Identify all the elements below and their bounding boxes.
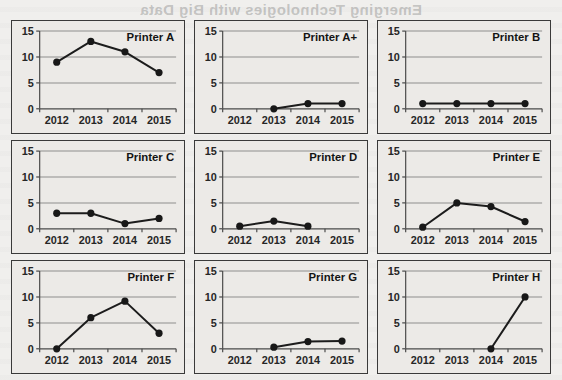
y-tick-label-5: 5	[211, 317, 217, 329]
y-tick-label-5: 5	[211, 197, 217, 209]
chart-panel-printer-f: 0510152012201320142015Printer F	[11, 260, 185, 374]
data-point-2012	[419, 224, 426, 231]
chart-panel-printer-c: 0510152012201320142015Printer C	[11, 140, 185, 254]
y-tick-label-5: 5	[211, 77, 217, 89]
x-tick-label-2012: 2012	[45, 354, 69, 366]
data-point-2012	[419, 100, 426, 107]
data-point-2014	[487, 203, 494, 210]
y-tick-label-15: 15	[388, 265, 400, 277]
series-line	[57, 301, 159, 349]
y-tick-label-10: 10	[388, 171, 400, 183]
panel-title: Printer A	[127, 31, 175, 43]
data-point-2014	[304, 223, 311, 230]
x-tick-label-2012: 2012	[411, 354, 435, 366]
x-tick-label-2014: 2014	[479, 354, 504, 366]
y-tick-label-15: 15	[205, 25, 217, 37]
data-point-2012	[236, 223, 243, 230]
x-tick-label-2012: 2012	[411, 234, 435, 246]
y-tick-label-0: 0	[28, 103, 34, 115]
data-point-2013	[87, 210, 94, 217]
data-point-2015	[338, 337, 345, 344]
x-tick-label-2013: 2013	[445, 114, 469, 126]
y-tick-label-10: 10	[388, 51, 400, 63]
y-tick-label-15: 15	[205, 145, 217, 157]
y-tick-label-15: 15	[388, 25, 400, 37]
panel-title: Printer C	[126, 151, 174, 163]
x-tick-label-2015: 2015	[513, 354, 537, 366]
y-tick-label-5: 5	[28, 317, 34, 329]
y-tick-label-10: 10	[205, 171, 217, 183]
data-point-2015	[521, 100, 528, 107]
line-chart-printer-c: 0510152012201320142015Printer C	[12, 141, 184, 253]
data-point-2014	[121, 48, 128, 55]
data-point-2014	[121, 297, 128, 304]
y-tick-label-10: 10	[22, 291, 34, 303]
y-tick-label-0: 0	[211, 343, 217, 355]
data-point-2014	[487, 100, 494, 107]
data-point-2013	[453, 100, 460, 107]
x-tick-label-2013: 2013	[79, 114, 103, 126]
y-tick-label-15: 15	[388, 145, 400, 157]
data-point-2015	[338, 100, 345, 107]
line-chart-printer-d: 0510152012201320142015Printer D	[195, 141, 367, 253]
data-point-2013	[270, 105, 277, 112]
y-tick-label-15: 15	[22, 145, 34, 157]
x-tick-label-2013: 2013	[262, 354, 286, 366]
y-tick-label-10: 10	[388, 291, 400, 303]
data-point-2014	[304, 100, 311, 107]
bleed-through-title: Emerging Technologies with Big Data	[0, 1, 562, 18]
data-point-2015	[155, 215, 162, 222]
y-tick-label-15: 15	[22, 25, 34, 37]
data-point-2013	[87, 38, 94, 45]
y-tick-label-10: 10	[22, 171, 34, 183]
y-tick-label-15: 15	[205, 265, 217, 277]
y-tick-label-0: 0	[394, 223, 400, 235]
y-tick-label-10: 10	[205, 51, 217, 63]
data-point-2013	[270, 217, 277, 224]
x-tick-label-2015: 2015	[513, 234, 537, 246]
data-point-2015	[155, 330, 162, 337]
x-tick-label-2014: 2014	[479, 234, 504, 246]
panel-title: Printer A+	[303, 31, 357, 43]
panel-title: Printer E	[493, 151, 541, 163]
chart-panel-printer-g: 0510152012201320142015Printer G	[194, 260, 368, 374]
y-tick-label-5: 5	[394, 77, 400, 89]
chart-panel-printer-h: 0510152012201320142015Printer H	[377, 260, 551, 374]
data-point-2012	[53, 210, 60, 217]
y-tick-label-0: 0	[211, 223, 217, 235]
chart-panel-printer-a: 0510152012201320142015Printer A	[11, 20, 185, 134]
panel-title: Printer H	[492, 271, 540, 283]
data-point-2015	[155, 69, 162, 76]
x-tick-label-2013: 2013	[79, 354, 103, 366]
x-tick-label-2015: 2015	[147, 234, 171, 246]
x-tick-label-2014: 2014	[479, 114, 504, 126]
x-tick-label-2012: 2012	[411, 114, 435, 126]
x-tick-label-2012: 2012	[45, 234, 69, 246]
chart-panel-printer-a-plus: 0510152012201320142015Printer A+	[194, 20, 368, 134]
data-point-2014	[487, 345, 494, 352]
x-tick-label-2015: 2015	[513, 114, 537, 126]
data-point-2015	[521, 293, 528, 300]
series-line	[423, 203, 525, 227]
data-point-2013	[87, 314, 94, 321]
x-tick-label-2014: 2014	[296, 354, 321, 366]
x-tick-label-2013: 2013	[79, 234, 103, 246]
line-chart-printer-a: 0510152012201320142015Printer A	[12, 21, 184, 133]
x-tick-label-2015: 2015	[147, 354, 171, 366]
panel-title: Printer D	[309, 151, 357, 163]
y-tick-label-15: 15	[22, 265, 34, 277]
y-tick-label-5: 5	[394, 317, 400, 329]
x-tick-label-2014: 2014	[113, 114, 138, 126]
chart-panel-printer-d: 0510152012201320142015Printer D	[194, 140, 368, 254]
x-tick-label-2014: 2014	[113, 354, 138, 366]
chart-panel-printer-b: 0510152012201320142015Printer B	[377, 20, 551, 134]
data-point-2013	[270, 344, 277, 351]
x-tick-label-2014: 2014	[113, 234, 138, 246]
x-tick-label-2013: 2013	[445, 354, 469, 366]
y-tick-label-5: 5	[28, 77, 34, 89]
x-tick-label-2014: 2014	[296, 114, 321, 126]
x-tick-label-2013: 2013	[262, 234, 286, 246]
x-tick-label-2015: 2015	[330, 114, 354, 126]
line-chart-printer-f: 0510152012201320142015Printer F	[12, 261, 184, 373]
x-tick-label-2014: 2014	[296, 234, 321, 246]
